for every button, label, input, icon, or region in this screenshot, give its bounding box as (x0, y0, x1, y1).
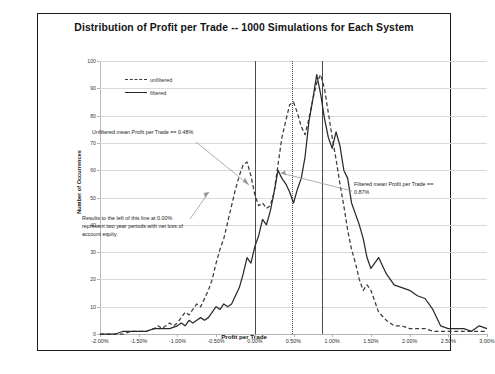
x-tick-label: -1.50% (130, 338, 147, 344)
x-tick-label: 2.50% (441, 338, 456, 344)
legend-item-unfiltered: unfiltered (125, 73, 172, 86)
x-tick-mark (332, 334, 333, 337)
annotation-filtered-mean: Filtered mean Profit per Trade == 0.87% (354, 180, 450, 196)
chart-legend: unfiltered filtered (125, 73, 172, 99)
plot-area: 0102030405060708090100 -2.00%-1.50%-1.00… (100, 61, 487, 334)
solid-line-swatch-icon (125, 92, 147, 93)
x-tick-mark (371, 334, 372, 337)
x-tick-label: -2.00% (91, 338, 108, 344)
x-tick-mark (255, 334, 256, 337)
dashed-line-swatch-icon (125, 79, 147, 80)
x-tick-label: 1.50% (363, 338, 378, 344)
x-tick-mark (294, 334, 295, 337)
x-tick-label: 1.00% (325, 338, 340, 344)
x-tick-label: -1.00% (169, 338, 186, 344)
x-tick-label: 2.00% (402, 338, 417, 344)
y-tick-label: 50 (90, 195, 96, 201)
y-axis-label: Number of Occurrences (76, 150, 82, 214)
annotation-loss-note: Results to the left of this line at 0.00… (82, 214, 190, 239)
y-tick-label: 90 (90, 85, 96, 91)
legend-item-filtered: filtered (125, 86, 172, 99)
legend-label-unfiltered: unfiltered (150, 77, 172, 83)
y-tick-label: 70 (90, 140, 96, 146)
x-tick-label: 0.50% (286, 338, 301, 344)
chart-title: Distribution of Profit per Trade -- 1000… (38, 22, 450, 33)
x-tick-mark (216, 334, 217, 337)
annotation-unfiltered-mean: Unfiltered mean Profit per Trade == 0.48… (92, 128, 202, 136)
x-tick-mark (448, 334, 449, 337)
x-tick-mark (410, 334, 411, 337)
y-tick-label: 30 (90, 249, 96, 255)
y-tick-label: 60 (90, 167, 96, 173)
x-tick-mark (487, 334, 488, 337)
x-tick-label: 3.00% (479, 338, 494, 344)
y-tick-label: 100 (87, 58, 96, 64)
x-tick-mark (139, 334, 140, 337)
legend-label-filtered: filtered (150, 90, 166, 96)
series-line-unfiltered (100, 75, 487, 334)
x-tick-mark (177, 334, 178, 337)
series-line-filtered (100, 75, 487, 334)
series-svg (100, 61, 487, 334)
y-tick-label: 20 (90, 276, 96, 282)
y-tick-label: 0 (93, 331, 96, 337)
y-tick-label: 80 (90, 113, 96, 119)
x-tick-label: 0.00% (247, 338, 262, 344)
x-tick-label: -0.50% (208, 338, 225, 344)
y-tick-label: 10 (90, 304, 96, 310)
